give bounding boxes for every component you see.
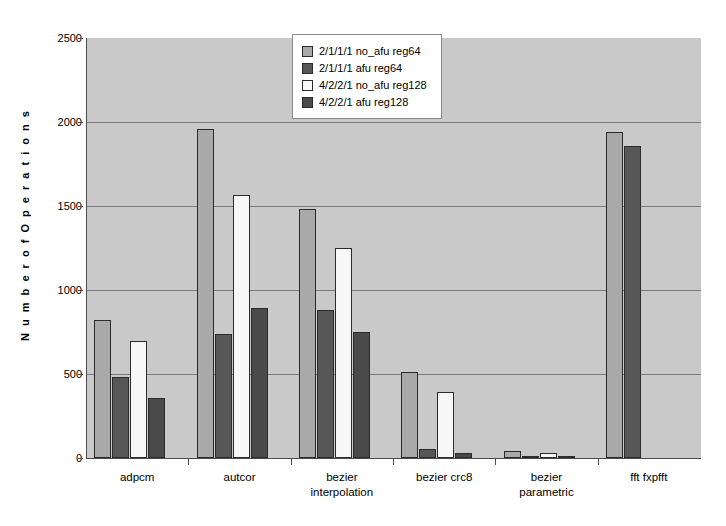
y-tick-mark [78, 458, 83, 459]
bar [317, 310, 334, 458]
y-tick-mark [78, 290, 83, 291]
bar [437, 392, 454, 458]
y-tick-label: 500 [38, 368, 82, 380]
bar [624, 146, 641, 458]
legend-item[interactable]: 2/1/1/1 no_afu reg64 [302, 43, 427, 59]
legend-item-label: 2/1/1/1 no_afu reg64 [319, 45, 421, 57]
x-category-label: autcor [188, 470, 290, 485]
bar [148, 398, 165, 458]
y-tick-mark [78, 122, 83, 123]
bar [130, 341, 147, 458]
bar [401, 372, 418, 458]
bar [455, 453, 472, 458]
y-tick-label: 2500 [38, 32, 82, 44]
bar [522, 456, 539, 458]
chart-legend: 2/1/1/1 no_afu reg642/1/1/1 afu reg644/2… [292, 34, 442, 119]
bar [251, 308, 268, 458]
bar [299, 209, 316, 458]
y-tick-mark [78, 374, 83, 375]
x-category-label: bezier crc8 [393, 470, 495, 485]
x-category-label: adpcm [86, 470, 188, 485]
bar [540, 453, 557, 458]
bar [94, 320, 111, 458]
bar [419, 449, 436, 458]
bar-chart: N u m b e r o f O p e r a t i o n s 0500… [0, 0, 726, 526]
legend-swatch-icon [302, 63, 313, 74]
bar [197, 129, 214, 458]
y-tick-label: 1000 [38, 284, 82, 296]
y-tick-mark [78, 206, 83, 207]
x-tick-mark [291, 459, 292, 465]
legend-item[interactable]: 4/2/2/1 afu reg128 [302, 94, 427, 110]
x-tick-mark [188, 459, 189, 465]
legend-swatch-icon [302, 46, 313, 57]
x-tick-mark [598, 459, 599, 465]
y-axis-ticks: 05001000150020002500 [30, 38, 82, 458]
legend-swatch-icon [302, 97, 313, 108]
y-tick-label: 2000 [38, 116, 82, 128]
bar [112, 377, 129, 458]
legend-swatch-icon [302, 80, 313, 91]
bar [558, 456, 575, 458]
x-category-label: bezier parametric [495, 470, 597, 500]
bar [353, 332, 370, 458]
legend-item[interactable]: 2/1/1/1 afu reg64 [302, 60, 427, 76]
x-tick-mark [393, 459, 394, 465]
bar [215, 334, 232, 458]
legend-item-label: 2/1/1/1 afu reg64 [319, 62, 402, 74]
bar [233, 195, 250, 458]
legend-item-label: 4/2/2/1 afu reg128 [319, 96, 408, 108]
x-category-label: bezier interpolation [291, 470, 393, 500]
bar [606, 132, 623, 458]
bar [335, 248, 352, 458]
y-tick-mark [78, 38, 83, 39]
bar [504, 451, 521, 458]
y-tick-label: 0 [38, 452, 82, 464]
y-tick-label: 1500 [38, 200, 82, 212]
x-tick-mark [495, 459, 496, 465]
legend-item[interactable]: 4/2/2/1 no_afu reg128 [302, 77, 427, 93]
legend-item-label: 4/2/2/1 no_afu reg128 [319, 79, 427, 91]
x-category-label: fft fxpfft [598, 470, 700, 485]
